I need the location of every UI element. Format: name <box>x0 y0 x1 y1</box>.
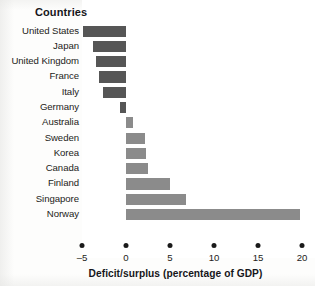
bar-positive <box>126 178 170 189</box>
bar-rows: United StatesJapanUnited KingdomFranceIt… <box>0 24 315 223</box>
country-label: Finland <box>0 177 79 188</box>
tick-dot <box>124 243 129 248</box>
x-axis-title: Deficit/surplus (percentage of GDP) <box>0 268 315 279</box>
tick-dot <box>256 243 261 248</box>
tick-label: 10 <box>209 252 220 263</box>
bar-negative <box>96 56 126 67</box>
tick-dot <box>80 243 85 248</box>
x-axis-tick-marks <box>0 243 315 251</box>
country-label: Germany <box>0 101 79 112</box>
bar-row: Norway <box>0 208 315 223</box>
tick-label: 15 <box>253 252 264 263</box>
tick-label: 0 <box>123 252 128 263</box>
bar-row: Sweden <box>0 131 315 146</box>
bar-negative <box>103 87 126 98</box>
country-label: Canada <box>0 162 79 173</box>
bar-row: Germany <box>0 100 315 115</box>
country-label: United States <box>0 25 79 36</box>
bar-positive <box>126 133 145 144</box>
tick-dot <box>212 243 217 248</box>
bar-row: United States <box>0 24 315 39</box>
bar-positive <box>126 117 133 128</box>
country-label: Australia <box>0 116 79 127</box>
bar-row: Korea <box>0 146 315 161</box>
bar-row: United Kingdom <box>0 55 315 70</box>
country-label: Sweden <box>0 132 79 143</box>
tick-label: 20 <box>297 252 308 263</box>
bar-row: Singapore <box>0 192 315 207</box>
bar-negative <box>93 41 126 52</box>
x-axis-tick-labels: –505101520 <box>0 252 315 266</box>
bar-positive <box>126 194 186 205</box>
country-label: Singapore <box>0 193 79 204</box>
country-label: France <box>0 70 79 81</box>
country-label: Japan <box>0 40 79 51</box>
bar-row: Canada <box>0 162 315 177</box>
bar-row: Finland <box>0 177 315 192</box>
country-label: Norway <box>0 208 79 219</box>
country-label: Korea <box>0 147 79 158</box>
bar-row: Japan <box>0 39 315 54</box>
bar-row: France <box>0 70 315 85</box>
bar-positive <box>126 163 148 174</box>
tick-dot <box>168 243 173 248</box>
country-label: Italy <box>0 86 79 97</box>
countries-column-header: Countries <box>35 6 87 18</box>
tick-dot <box>300 243 305 248</box>
tick-label: –5 <box>77 252 88 263</box>
country-label: United Kingdom <box>0 55 79 66</box>
bar-row: Australia <box>0 116 315 131</box>
bar-positive <box>126 209 300 220</box>
deficit-surplus-bar-chart: Countries United StatesJapanUnited Kingd… <box>0 0 315 286</box>
bar-negative <box>83 26 126 37</box>
bar-negative <box>120 102 126 113</box>
tick-label: 5 <box>167 252 172 263</box>
bar-row: Italy <box>0 85 315 100</box>
x-axis-title-text: Deficit/surplus (percentage of GDP) <box>53 268 263 279</box>
bar-negative <box>99 71 126 82</box>
bar-positive <box>126 148 146 159</box>
